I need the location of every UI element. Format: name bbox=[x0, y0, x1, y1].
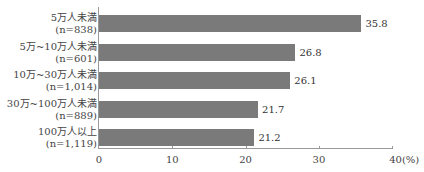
x-tick-label: 0 bbox=[96, 154, 102, 165]
bar-value-label: 26.1 bbox=[294, 72, 316, 89]
category-sample-size: (n=1,014) bbox=[13, 81, 97, 93]
bar-value-label: 21.2 bbox=[258, 129, 280, 146]
x-tick-label: 10 bbox=[166, 154, 179, 165]
bar bbox=[99, 72, 290, 89]
category-label: 30万~100万人未満(n=889) bbox=[7, 98, 97, 122]
bar bbox=[99, 44, 295, 61]
category-label: 5万人未満(n=838) bbox=[51, 12, 97, 36]
bar-value-label: 26.8 bbox=[299, 44, 321, 61]
bar bbox=[99, 15, 361, 32]
x-tick bbox=[319, 146, 320, 149]
category-label: 5万~10万人未満(n=601) bbox=[20, 41, 97, 65]
category-label: 10万~30万人未満(n=1,014) bbox=[13, 69, 97, 93]
category-sample-size: (n=1,119) bbox=[38, 138, 97, 150]
category-name: 30万~100万人未満 bbox=[7, 98, 97, 110]
category-name: 5万~10万人未満 bbox=[20, 41, 97, 53]
x-tick bbox=[392, 146, 393, 149]
bar-value-label: 35.8 bbox=[365, 15, 387, 32]
category-label: 100万人以上(n=1,119) bbox=[38, 126, 97, 150]
x-tick-label: 30 bbox=[313, 154, 326, 165]
bar-value-label: 21.7 bbox=[262, 101, 284, 118]
category-sample-size: (n=601) bbox=[20, 53, 97, 65]
category-name: 5万人未満 bbox=[51, 12, 97, 24]
category-name: 100万人以上 bbox=[38, 126, 97, 138]
horizontal-bar-chart: 5万人未満(n=838)35.85万~10万人未満(n=601)26.810万~… bbox=[0, 0, 424, 172]
bar bbox=[99, 101, 258, 118]
bar bbox=[99, 129, 254, 146]
x-tick-label: 40(%) bbox=[389, 154, 419, 165]
category-name: 10万~30万人未満 bbox=[13, 69, 97, 81]
x-tick-label: 20 bbox=[239, 154, 252, 165]
x-tick bbox=[172, 146, 173, 149]
x-tick bbox=[246, 146, 247, 149]
category-sample-size: (n=838) bbox=[51, 24, 97, 36]
category-sample-size: (n=889) bbox=[7, 110, 97, 122]
